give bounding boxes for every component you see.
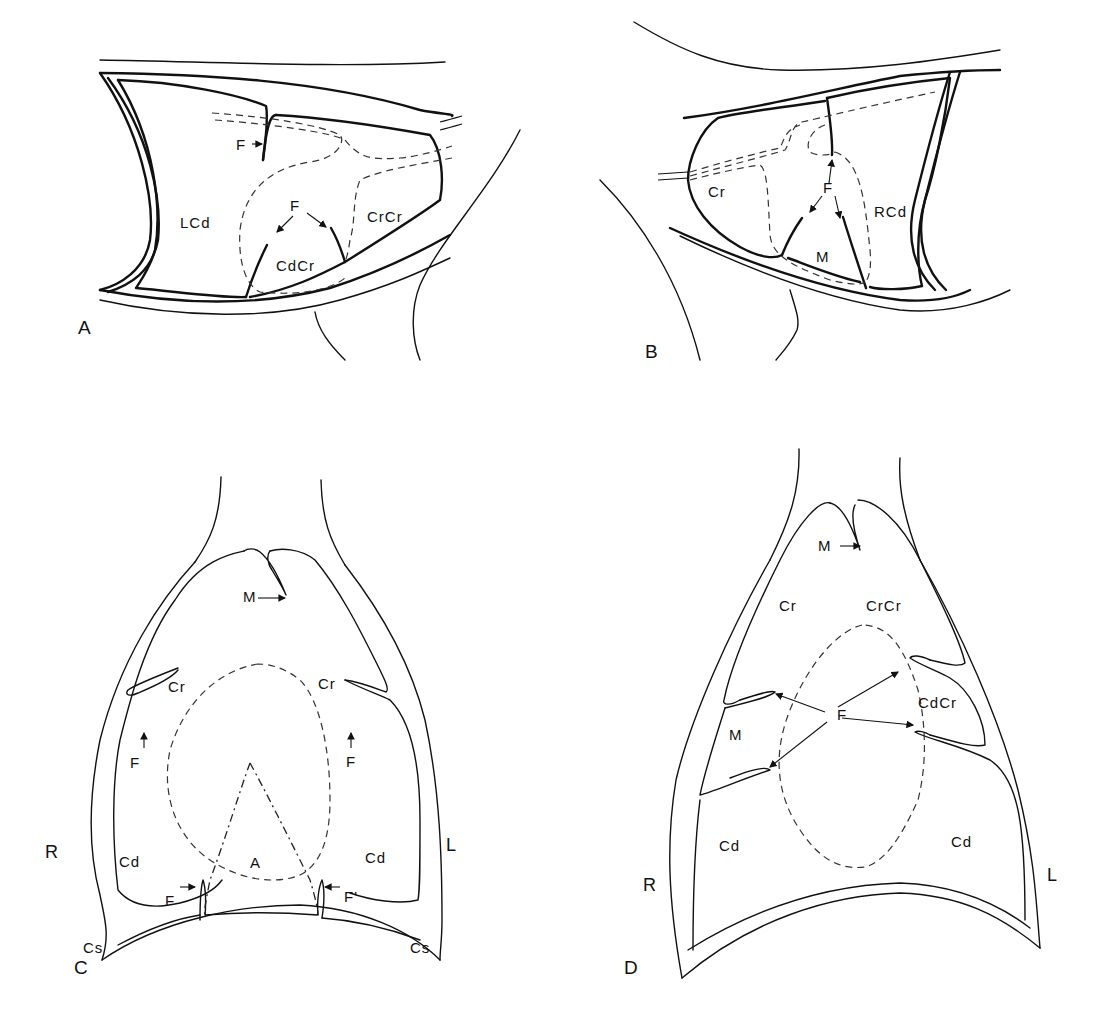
panel-d-letter: D: [624, 958, 638, 977]
panel-a-label-crcr: CrCr: [367, 209, 403, 224]
panel-d-label-cd-left: Cd: [719, 838, 740, 853]
panel-d-side-l: L: [1047, 866, 1057, 884]
panel-c-side-l: L: [446, 836, 456, 854]
panel-b-letter: B: [645, 342, 658, 361]
panel-c-label-a: A: [250, 855, 261, 870]
panel-d-label-cdcr: CdCr: [918, 695, 957, 710]
panel-a-label-lcd: LCd: [180, 215, 211, 230]
panel-d-side-r: R: [643, 876, 656, 894]
panel-c-label-f-bottom-left: F: [165, 893, 175, 908]
panel-c-letter: C: [74, 958, 88, 977]
panel-c-label-f-right: F: [346, 754, 356, 769]
panel-c-label-cd-right: Cd: [365, 850, 386, 865]
panel-a-label-cdcr: CdCr: [276, 258, 315, 273]
panel-c-label-cs-right: Cs: [410, 940, 430, 955]
panel-c-label-cr-left: Cr: [168, 679, 186, 694]
panel-c-side-r: R: [45, 843, 58, 861]
panel-a-drawing: [100, 60, 520, 360]
panel-d-label-m-top: M: [818, 538, 832, 553]
panel-a-label-f-mid: F: [290, 198, 300, 213]
panel-d-label-m-left: M: [729, 727, 743, 742]
panel-c-label-cr-right: Cr: [318, 676, 336, 691]
panel-a-label-f-top: F: [236, 137, 246, 152]
panel-d-label-crcr: CrCr: [866, 598, 902, 613]
anatomical-figure: [0, 0, 1106, 1011]
panel-b-label-m: M: [816, 249, 830, 264]
panel-c-label-f-prime: F': [344, 889, 358, 904]
panel-d-label-cr: Cr: [779, 598, 797, 613]
panel-c-label-m: M: [243, 589, 257, 604]
panel-d-label-cd-right: Cd: [951, 834, 972, 849]
panel-b-label-cr: Cr: [708, 184, 726, 199]
panel-c-drawing: [91, 477, 442, 960]
panel-c-label-cd-left: Cd: [119, 854, 140, 869]
panel-d-drawing: [670, 449, 1040, 978]
panel-c-label-cs-left: Cs: [83, 940, 103, 955]
panel-a-letter: A: [78, 318, 91, 337]
panel-c-label-f-left: F: [130, 755, 140, 770]
panel-b-label-rcd: RCd: [874, 204, 907, 219]
panel-b-label-f: F: [823, 180, 833, 195]
panel-d-label-f: F: [837, 707, 847, 722]
panel-b-drawing: [600, 22, 1010, 360]
